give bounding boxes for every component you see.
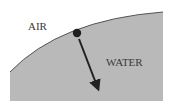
air-label: AIR (28, 20, 48, 32)
water-label: WATER (106, 56, 143, 68)
air-water-diagram: AIR WATER (0, 0, 172, 109)
particle-dot (73, 29, 81, 37)
